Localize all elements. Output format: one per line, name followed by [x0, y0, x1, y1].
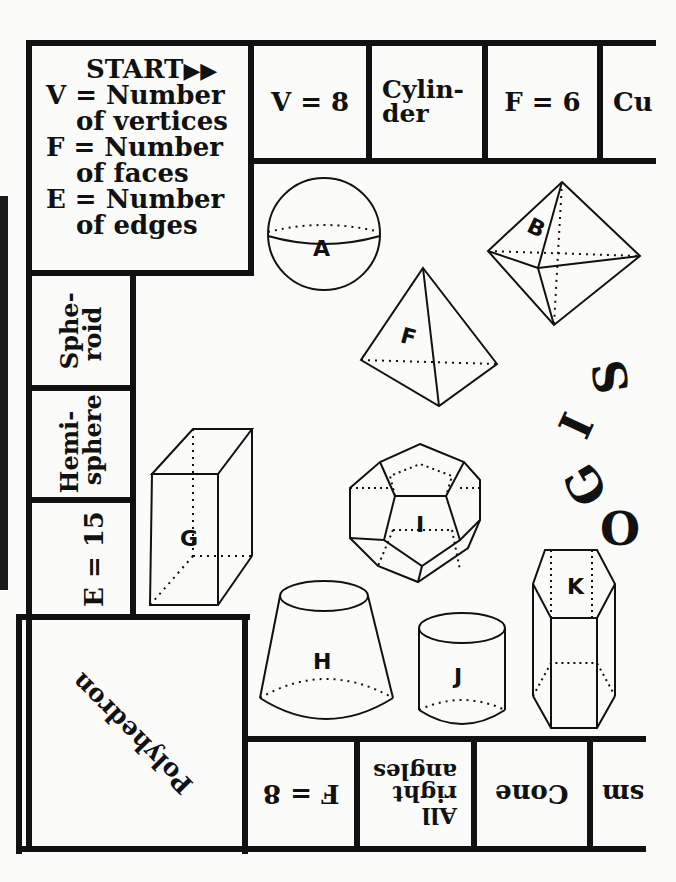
shape-label-k: K [567, 574, 585, 599]
dodecahedron-shape-i[interactable] [350, 444, 480, 582]
shape-label-g: G [180, 526, 198, 551]
shape-label-f: F [398, 323, 419, 351]
shape-label-a: A [313, 236, 330, 261]
shape-label-h: H [313, 649, 331, 674]
shape-label-i: I [416, 512, 424, 537]
octahedron-shape-b[interactable] [488, 182, 640, 325]
tetrahedron-shape-f[interactable] [361, 268, 497, 406]
shape-label-j: J [452, 664, 462, 689]
sphere-shape-a[interactable] [268, 178, 380, 290]
rectangular-prism-shape-g[interactable] [150, 429, 252, 605]
shapes-canvas: A B F G I H J K [0, 0, 676, 882]
